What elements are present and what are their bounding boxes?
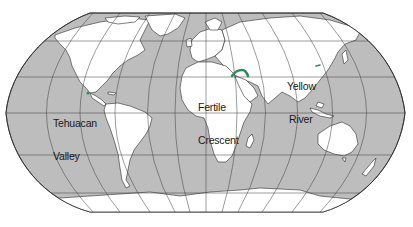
fertile-line2: Crescent <box>198 135 238 146</box>
world-map: Tehuacan Valley Fertile Crescent Yellow … <box>0 0 413 227</box>
tehuacan-valley-marker <box>87 92 90 95</box>
fertile-line1: Fertile <box>198 102 238 113</box>
label-yellow-river: Yellow River <box>287 59 316 147</box>
label-fertile-crescent: Fertile Crescent <box>198 80 238 168</box>
yellow-river-highlight <box>316 65 320 66</box>
tehuacan-line2: Valley <box>53 151 97 162</box>
label-tehuacan-valley: Tehuacan Valley <box>53 96 97 184</box>
yellow-line1: Yellow <box>287 81 316 92</box>
tehuacan-line1: Tehuacan <box>53 118 97 129</box>
yellow-line2: River <box>287 114 316 125</box>
